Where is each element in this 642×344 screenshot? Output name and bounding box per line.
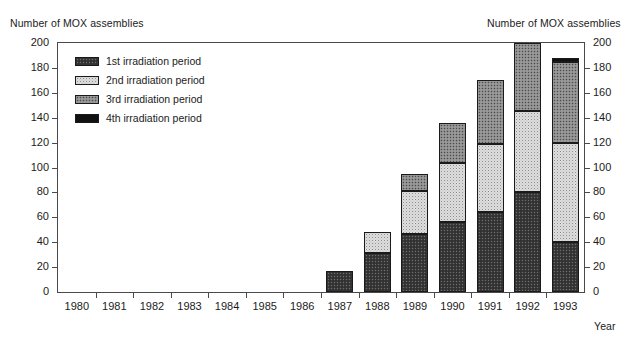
y-tick-label-right: 60 — [593, 211, 605, 222]
y-tick-label-left: 20 — [37, 261, 49, 272]
bar-1990 — [439, 123, 466, 292]
x-tick-label: 1980 — [65, 301, 89, 312]
y-tick-left — [52, 93, 58, 94]
y-tick-label-right: 120 — [593, 137, 611, 148]
y-tick-right — [584, 192, 590, 193]
bar-segment — [439, 123, 466, 163]
legend-swatch-icon — [75, 114, 99, 123]
legend-label: 1st irradiation period — [106, 56, 201, 67]
legend-label: 2nd irradiation period — [106, 75, 205, 86]
y-tick-left — [52, 168, 58, 169]
y-tick-label-left: 100 — [31, 162, 49, 173]
bar-1988 — [364, 232, 391, 292]
x-tick-label: 1981 — [102, 301, 126, 312]
bar-segment — [401, 191, 428, 233]
y-tick-label-left: 60 — [37, 211, 49, 222]
bar-segment — [364, 232, 391, 253]
y-tick-label-right: 160 — [593, 87, 611, 98]
x-tick — [133, 292, 134, 298]
y-axis-title-right: Number of MOX assemblies — [487, 17, 621, 29]
legend-label: 3rd irradiation period — [106, 94, 202, 105]
y-tick-label-left: 160 — [31, 87, 49, 98]
y-tick-label-left: 180 — [31, 62, 49, 73]
bar-segment — [514, 43, 541, 111]
y-tick-label-right: 100 — [593, 162, 611, 173]
x-axis-title: Year — [594, 320, 616, 332]
bar-segment — [477, 144, 504, 212]
x-tick — [208, 292, 209, 298]
x-tick-label: 1985 — [252, 301, 276, 312]
bar-segment — [477, 212, 504, 292]
x-tick-label: 1986 — [290, 301, 314, 312]
bar-1987 — [326, 271, 353, 292]
y-tick-left — [52, 242, 58, 243]
y-tick-right — [584, 217, 590, 218]
legend-swatch-icon — [75, 76, 99, 85]
x-tick — [96, 292, 97, 298]
bar-segment — [364, 253, 391, 292]
x-tick-label: 1987 — [328, 301, 352, 312]
y-tick-label-left: 200 — [31, 37, 49, 48]
x-tick-label: 1990 — [440, 301, 464, 312]
x-tick-label: 1993 — [553, 301, 577, 312]
y-tick-left — [52, 192, 58, 193]
y-tick-label-right: 180 — [593, 62, 611, 73]
bar-segment — [401, 174, 428, 191]
x-tick-label: 1992 — [515, 301, 539, 312]
legend-item: 4th irradiation period — [75, 110, 205, 126]
y-tick-right — [584, 118, 590, 119]
plot-area: 020406080100120140160180200 020406080100… — [57, 42, 585, 293]
y-tick-left — [52, 267, 58, 268]
y-tick-right — [584, 93, 590, 94]
y-tick-right — [584, 242, 590, 243]
y-tick-label-left: 80 — [37, 186, 49, 197]
plot-inner: 020406080100120140160180200 020406080100… — [58, 43, 584, 292]
y-axis-title-left: Number of MOX assemblies — [10, 17, 144, 29]
y-tick-left — [52, 118, 58, 119]
legend-item: 3rd irradiation period — [75, 91, 205, 107]
x-tick — [471, 292, 472, 298]
bar-segment — [552, 58, 579, 62]
bar-segment — [401, 234, 428, 293]
legend-label: 4th irradiation period — [106, 113, 202, 124]
bar-segment — [552, 143, 579, 243]
x-tick-label: 1982 — [140, 301, 164, 312]
bar-segment — [439, 163, 466, 223]
bar-1989 — [401, 174, 428, 292]
y-tick-label-right: 20 — [593, 261, 605, 272]
legend-swatch-icon — [75, 95, 99, 104]
x-tick-label: 1988 — [365, 301, 389, 312]
x-tick-label: 1989 — [403, 301, 427, 312]
y-tick-label-right: 140 — [593, 112, 611, 123]
bar-segment — [439, 222, 466, 292]
bar-segment — [514, 192, 541, 292]
y-tick-label-left: 140 — [31, 112, 49, 123]
y-tick-right — [584, 68, 590, 69]
bar-segment — [552, 62, 579, 143]
y-tick-label-left: 40 — [37, 236, 49, 247]
bar-segment — [514, 111, 541, 192]
y-tick-right — [584, 267, 590, 268]
y-tick-left — [52, 68, 58, 69]
x-tick-label: 1984 — [215, 301, 239, 312]
bar-1991 — [477, 80, 504, 292]
x-tick — [283, 292, 284, 298]
y-tick-label-right: 200 — [593, 37, 611, 48]
x-tick — [171, 292, 172, 298]
x-tick-label: 1983 — [177, 301, 201, 312]
chart-page: Number of MOX assemblies Number of MOX a… — [0, 0, 642, 344]
y-tick-left — [52, 143, 58, 144]
x-tick — [246, 292, 247, 298]
legend-item: 1st irradiation period — [75, 53, 205, 69]
x-tick — [546, 292, 547, 298]
y-tick-label-left: 120 — [31, 137, 49, 148]
y-tick-label-right: 40 — [593, 236, 605, 247]
x-tick — [434, 292, 435, 298]
x-tick — [359, 292, 360, 298]
x-tick — [396, 292, 397, 298]
legend: 1st irradiation period2nd irradiation pe… — [75, 53, 205, 129]
y-tick-label-left: 0 — [43, 286, 49, 297]
y-tick-label-right: 0 — [593, 286, 599, 297]
legend-item: 2nd irradiation period — [75, 72, 205, 88]
y-tick-left — [52, 217, 58, 218]
